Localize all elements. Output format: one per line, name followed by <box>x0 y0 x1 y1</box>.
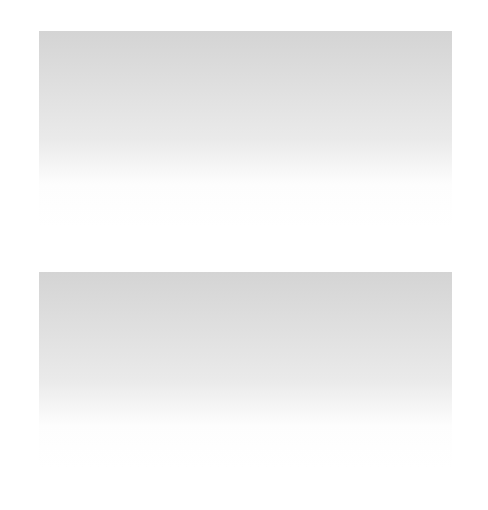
chart-page <box>0 0 488 510</box>
plot-background <box>39 272 452 469</box>
chart-svg-bottom <box>0 255 488 510</box>
plot-background <box>39 31 452 228</box>
chart-panel-bottom <box>0 255 488 510</box>
chart-panel-top <box>0 0 488 255</box>
chart-svg-top <box>0 0 488 255</box>
